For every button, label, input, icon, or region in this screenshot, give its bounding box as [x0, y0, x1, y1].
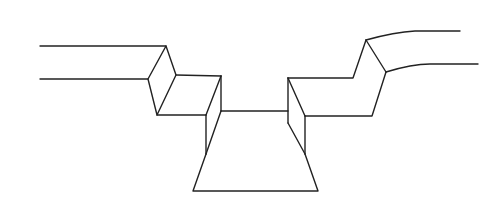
channel-cross-section-diagram — [0, 0, 504, 205]
left-step-top — [176, 75, 221, 76]
